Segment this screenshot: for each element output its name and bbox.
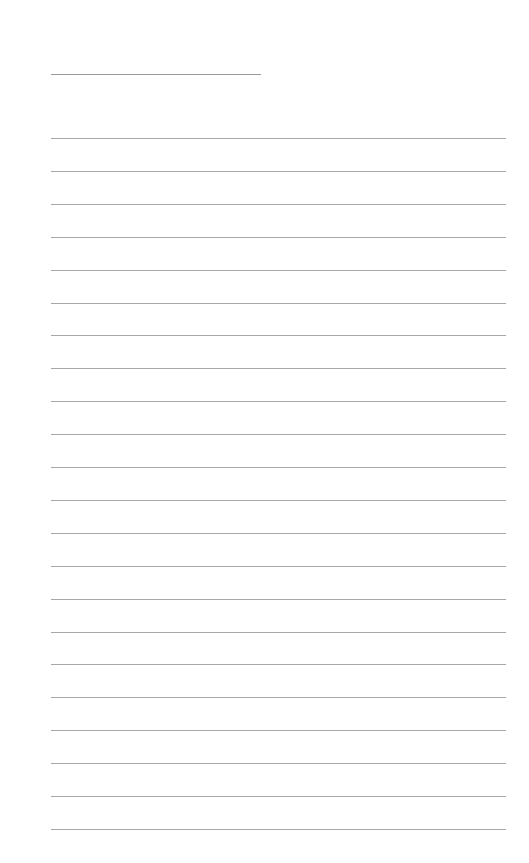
ruled-line: [51, 697, 506, 698]
ruled-line: [51, 434, 506, 435]
ruled-line: [51, 829, 506, 830]
ruled-line: [51, 500, 506, 501]
ruled-line: [51, 303, 506, 304]
lined-paper-page: [0, 0, 529, 863]
ruled-line: [51, 730, 506, 731]
ruled-line: [51, 632, 506, 633]
ruled-line: [51, 270, 506, 271]
ruled-line: [51, 566, 506, 567]
ruled-line: [51, 138, 506, 139]
ruled-line: [51, 171, 506, 172]
ruled-line: [51, 533, 506, 534]
ruled-line: [51, 237, 506, 238]
ruled-line: [51, 335, 506, 336]
ruled-line: [51, 664, 506, 665]
ruled-line: [51, 599, 506, 600]
header-line: [51, 74, 261, 75]
ruled-line: [51, 204, 506, 205]
ruled-line: [51, 467, 506, 468]
ruled-line: [51, 368, 506, 369]
ruled-line: [51, 796, 506, 797]
ruled-line: [51, 763, 506, 764]
ruled-line: [51, 401, 506, 402]
